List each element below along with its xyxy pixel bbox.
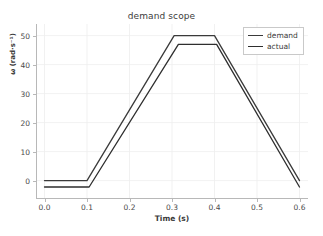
y-tick-mark bbox=[33, 152, 36, 153]
x-tick-label: 0.6 bbox=[294, 203, 306, 212]
x-tick-mark bbox=[215, 199, 216, 202]
y-tick-mark bbox=[33, 65, 36, 66]
chart-title: demand scope bbox=[0, 11, 323, 21]
y-tick-mark bbox=[33, 36, 36, 37]
x-tick-label: 0.1 bbox=[81, 203, 93, 212]
x-tick-mark bbox=[87, 199, 88, 202]
x-tick-label: 0.3 bbox=[166, 203, 178, 212]
y-tick-label: 0 bbox=[25, 176, 30, 185]
y-tick-mark bbox=[33, 123, 36, 124]
y-tick-label: 50 bbox=[20, 31, 30, 40]
legend-line-swatch bbox=[248, 46, 263, 47]
x-tick-mark bbox=[172, 199, 173, 202]
chart-figure: demand scope 0.00.10.20.30.40.50.6010203… bbox=[0, 0, 323, 236]
x-tick-label: 0.2 bbox=[124, 203, 136, 212]
x-tick-mark bbox=[45, 199, 46, 202]
y-tick-mark bbox=[33, 181, 36, 182]
y-tick-label: 10 bbox=[20, 147, 30, 156]
chart-legend: demandactual bbox=[243, 27, 304, 55]
y-tick-label: 40 bbox=[20, 60, 30, 69]
y-tick-label: 20 bbox=[20, 118, 30, 127]
x-axis-label: Time (s) bbox=[36, 214, 308, 223]
x-tick-label: 0.5 bbox=[251, 203, 263, 212]
y-tick-mark bbox=[33, 94, 36, 95]
x-tick-label: 0.0 bbox=[39, 203, 51, 212]
y-axis-spine bbox=[36, 24, 37, 198]
legend-label: demand bbox=[267, 31, 298, 40]
y-axis-label: ω (rad·s⁻¹) bbox=[9, 4, 17, 104]
legend-label: actual bbox=[267, 42, 290, 51]
series-line-demand bbox=[45, 36, 300, 181]
x-tick-mark bbox=[257, 199, 258, 202]
x-tick-mark bbox=[130, 199, 131, 202]
x-tick-mark bbox=[300, 199, 301, 202]
x-tick-label: 0.4 bbox=[209, 203, 221, 212]
y-tick-label: 30 bbox=[20, 89, 30, 98]
legend-line-swatch bbox=[248, 35, 263, 36]
legend-entry: actual bbox=[248, 42, 298, 51]
legend-entry: demand bbox=[248, 31, 298, 40]
